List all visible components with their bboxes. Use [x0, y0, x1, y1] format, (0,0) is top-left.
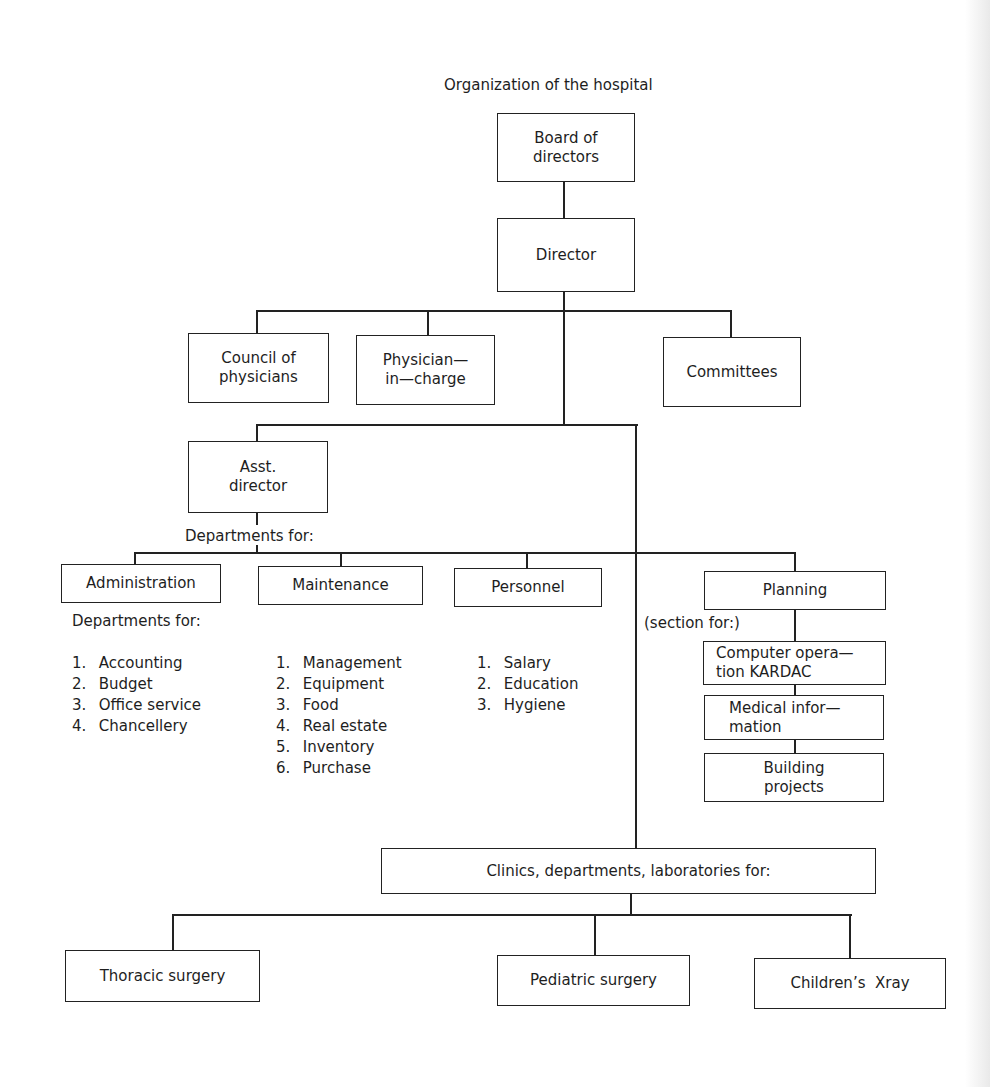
- list-item: 1. Accounting: [72, 653, 201, 674]
- node-administration: Administration: [61, 564, 221, 603]
- node-board-of-directors: Board of directors: [497, 113, 635, 182]
- node-asst-director: Asst. director: [188, 441, 328, 513]
- connector-main-trunk: [635, 424, 637, 849]
- connector-pediatric: [594, 914, 596, 956]
- node-planning: Planning: [704, 571, 886, 610]
- node-council-of-physicians: Council of physicians: [188, 333, 329, 403]
- node-personnel: Personnel: [454, 568, 602, 607]
- list-item: 1. Salary: [477, 653, 578, 674]
- list-item: 2. Equipment: [276, 674, 402, 695]
- node-director: Director: [497, 218, 635, 292]
- list-item: 2. Budget: [72, 674, 201, 695]
- node-computer-operation-kardac: Computer opera— tion KARDAC: [703, 641, 886, 685]
- connector-physician: [427, 310, 429, 335]
- org-chart: Organization of the hospital Board of di…: [0, 0, 990, 1087]
- list-maintenance: 1. Management 2. Equipment 3. Food 4. Re…: [276, 653, 402, 779]
- node-childrens-xray: Children’s Xray: [754, 958, 946, 1009]
- connector-planning: [794, 552, 796, 572]
- connector-asst: [256, 424, 258, 442]
- list-item: 3. Food: [276, 695, 402, 716]
- node-maintenance: Maintenance: [258, 566, 423, 605]
- connector-departments-bar: [134, 552, 796, 554]
- node-physician-in-charge: Physician— in—charge: [356, 335, 495, 405]
- node-medical-information: Medical infor— mation: [704, 695, 884, 740]
- list-personnel: 1. Salary 2. Education 3. Hygiene: [477, 653, 578, 716]
- connector-xray: [849, 914, 851, 959]
- list-item: 1. Management: [276, 653, 402, 674]
- node-clinics-departments-laboratories: Clinics, departments, laboratories for:: [381, 848, 876, 894]
- node-building-projects: Building projects: [704, 753, 884, 802]
- list-item: 4. Chancellery: [72, 716, 201, 737]
- list-item: 4. Real estate: [276, 716, 402, 737]
- list-item: 5. Inventory: [276, 737, 402, 758]
- list-administration: 1. Accounting 2. Budget 3. Office servic…: [72, 653, 201, 737]
- node-committees: Committees: [663, 337, 801, 407]
- connector-thoracic: [172, 914, 174, 951]
- connector-clinics-bar: [172, 914, 852, 916]
- connector-asst-down: [256, 513, 258, 525]
- list-item: 3. Hygiene: [477, 695, 578, 716]
- connector-committees: [730, 310, 732, 338]
- connector-council: [256, 310, 258, 334]
- label-departments-for: Departments for:: [185, 527, 314, 546]
- connector-personnel: [526, 552, 528, 569]
- label-section-for: (section for:): [644, 614, 740, 633]
- connector-clinics-down: [630, 894, 632, 916]
- list-item: 3. Office service: [72, 695, 201, 716]
- node-pediatric-surgery: Pediatric surgery: [497, 955, 690, 1006]
- list-item: 6. Purchase: [276, 758, 402, 779]
- connector-line-bar: [256, 424, 638, 426]
- node-thoracic-surgery: Thoracic surgery: [65, 950, 260, 1002]
- connector-maintenance: [340, 552, 342, 567]
- list-item: 2. Education: [477, 674, 578, 695]
- connector-staff-bar: [256, 310, 732, 312]
- chart-title: Organization of the hospital: [444, 76, 653, 95]
- label-admin-departments-for: Departments for:: [72, 612, 201, 631]
- connector-board-director: [563, 181, 565, 218]
